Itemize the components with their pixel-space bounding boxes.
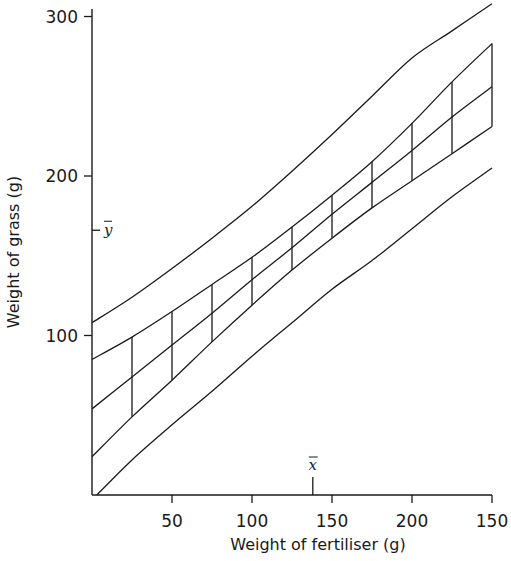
series-outer-upper	[92, 4, 492, 323]
x-mean-marker: x	[309, 456, 318, 495]
series-inner-upper	[92, 44, 492, 360]
x-axis-title: Weight of fertiliser (g)	[230, 535, 405, 554]
x-ticks: 50100150200150	[161, 495, 508, 531]
x-tick-label: 150	[476, 511, 508, 531]
x-tick-label: 50	[161, 511, 183, 531]
y-axis-title: Weight of grass (g)	[4, 176, 23, 328]
series-inner-lower	[92, 127, 492, 457]
y-mean-label: y	[103, 221, 113, 239]
confidence-band-chart: 100200300 50100150200150 y x Weight of f…	[0, 0, 511, 561]
x-tick-label: 150	[316, 511, 348, 531]
series-outer-lower	[97, 168, 492, 495]
y-ticks: 100200300	[46, 7, 92, 346]
x-tick-label: 100	[236, 511, 268, 531]
y-tick-label: 200	[46, 166, 78, 186]
y-mean-marker: y	[92, 221, 113, 239]
x-mean-label: x	[309, 456, 318, 474]
y-tick-label: 300	[46, 7, 78, 27]
y-tick-label: 100	[46, 326, 78, 346]
x-tick-label: 200	[396, 511, 428, 531]
